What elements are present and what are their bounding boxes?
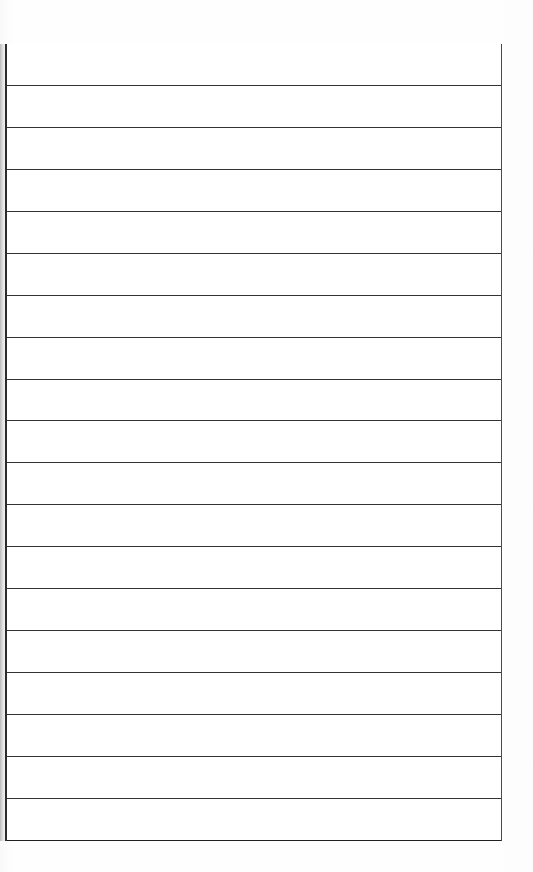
- table-cell[interactable]: [7, 463, 501, 471]
- table-cell[interactable]: [7, 505, 501, 513]
- table-cell[interactable]: [7, 631, 501, 639]
- table-row[interactable]: [7, 212, 501, 254]
- table-cell[interactable]: [7, 338, 501, 346]
- blank-ruled-table[interactable]: [5, 44, 502, 841]
- table-row[interactable]: [7, 338, 501, 380]
- table-row[interactable]: [7, 463, 501, 505]
- table-row[interactable]: [7, 757, 501, 799]
- table-cell[interactable]: [7, 547, 501, 555]
- table-row[interactable]: [7, 799, 501, 841]
- table-row[interactable]: [7, 296, 501, 338]
- table-cell[interactable]: [7, 254, 501, 262]
- table-row[interactable]: [7, 421, 501, 463]
- table-cell[interactable]: [7, 589, 501, 597]
- table-cell[interactable]: [7, 296, 501, 304]
- table-row[interactable]: [7, 547, 501, 589]
- table-row[interactable]: [7, 86, 501, 128]
- table-cell[interactable]: [7, 799, 501, 807]
- table-cell[interactable]: [7, 757, 501, 765]
- table-row[interactable]: [7, 673, 501, 715]
- table-row[interactable]: [7, 589, 501, 631]
- table-row[interactable]: [7, 380, 501, 422]
- table-cell[interactable]: [7, 673, 501, 681]
- table-row[interactable]: [7, 254, 501, 296]
- table-cell[interactable]: [7, 715, 501, 723]
- table-row[interactable]: [7, 715, 501, 757]
- table-cell[interactable]: [7, 170, 501, 178]
- table-row[interactable]: [7, 128, 501, 170]
- table-row[interactable]: [7, 505, 501, 547]
- table-cell[interactable]: [7, 86, 501, 94]
- table-cell[interactable]: [7, 44, 501, 52]
- table-row[interactable]: [7, 631, 501, 673]
- page-surface: [0, 0, 533, 872]
- table-cell[interactable]: [7, 212, 501, 220]
- table-row[interactable]: [7, 170, 501, 212]
- table-cell[interactable]: [7, 380, 501, 388]
- table-cell[interactable]: [7, 128, 501, 136]
- table-row[interactable]: [7, 44, 501, 86]
- table-cell[interactable]: [7, 421, 501, 429]
